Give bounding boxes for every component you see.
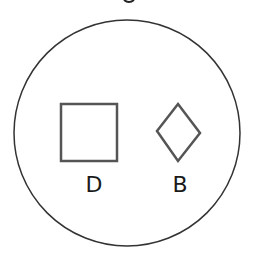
- square-label: D: [86, 174, 103, 196]
- square-shape: [61, 104, 117, 161]
- diamond-shape: [157, 104, 200, 161]
- container-circle: [14, 20, 240, 246]
- cropped-glyph: [124, 0, 134, 2]
- diagram-canvas: [0, 0, 257, 259]
- diamond-label: B: [172, 174, 187, 196]
